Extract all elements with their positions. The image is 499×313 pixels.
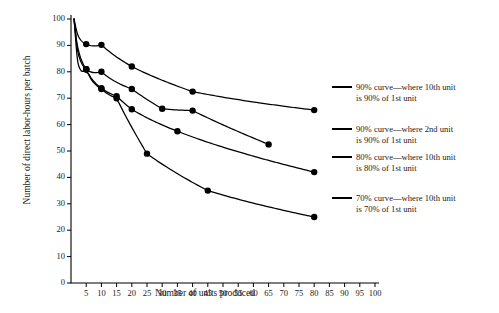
data-point: [129, 63, 135, 69]
y-tick-label: 40: [35, 172, 65, 181]
data-point: [189, 107, 195, 113]
legend-entry-line2: is 80% of 1st unit: [356, 163, 456, 174]
legend-entry-line2: is 90% of 1st unit: [356, 93, 456, 104]
legend-entry-line1: 90% curve—where 2nd unit: [356, 124, 453, 135]
y-tick-label: 20: [35, 225, 65, 234]
legend-entry-line2: is 90% of 1st unit: [356, 135, 453, 146]
y-axis-title: Number of direct labor-hours per batch: [22, 40, 32, 220]
data-point: [83, 66, 89, 72]
y-tick-label: 90: [35, 40, 65, 49]
data-point: [113, 95, 119, 101]
data-point: [129, 86, 135, 92]
legend-entry-line1: 90% curve—where 10th unit: [356, 82, 456, 93]
data-point: [265, 141, 271, 147]
legend-entry[interactable]: 70% curve—where 10th unitis 70% of 1st u…: [356, 193, 456, 214]
data-point: [129, 106, 135, 112]
data-point: [98, 42, 104, 48]
y-tick-label: 30: [35, 199, 65, 208]
series-line: [74, 19, 269, 144]
data-point: [159, 106, 165, 112]
y-tick-label: 80: [35, 67, 65, 76]
y-tick-label: 50: [35, 146, 65, 155]
data-point: [98, 69, 104, 75]
series-2: [74, 19, 272, 148]
y-tick-label: 70: [35, 93, 65, 102]
legend-entry[interactable]: 90% curve—where 10th unitis 90% of 1st u…: [356, 82, 456, 103]
learning-curve-chart: Number of direct labor-hours per batch N…: [0, 0, 499, 313]
y-tick-label: 0: [35, 278, 65, 287]
y-tick-label: 100: [35, 14, 65, 23]
y-tick-label: 60: [35, 120, 65, 129]
legend-entry-line1: 80% curve—where 10th unit: [356, 152, 456, 163]
data-point: [174, 128, 180, 134]
legend-entry[interactable]: 80% curve—where 10th unitis 80% of 1st u…: [356, 152, 456, 173]
x-tick-label: 100: [363, 289, 387, 298]
data-point: [98, 86, 104, 92]
data-point: [189, 88, 195, 94]
legend-entry-line1: 70% curve—where 10th unit: [356, 193, 456, 204]
data-point: [311, 107, 317, 113]
series-3: [74, 19, 317, 175]
series-1: [74, 19, 317, 113]
series-4: [74, 19, 317, 220]
data-point: [205, 187, 211, 193]
data-point: [311, 169, 317, 175]
data-point: [311, 214, 317, 220]
series-line: [74, 19, 314, 110]
data-point: [144, 150, 150, 156]
series-line: [74, 19, 314, 217]
legend-entry-line2: is 70% of 1st unit: [356, 204, 456, 215]
legend-entry[interactable]: 90% curve—where 2nd unitis 90% of 1st un…: [356, 124, 453, 145]
data-point: [83, 41, 89, 47]
axis-lines: [71, 15, 379, 283]
y-tick-label: 10: [35, 252, 65, 261]
